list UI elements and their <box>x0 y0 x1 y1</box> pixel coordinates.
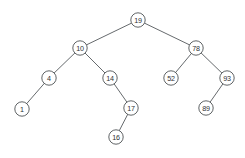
node-label-78: 78 <box>192 44 200 53</box>
tree-edge-17-16 <box>119 114 127 130</box>
tree-edge-19-78 <box>144 23 189 45</box>
tree-node-19[interactable]: 19 <box>131 13 145 27</box>
node-label-16: 16 <box>112 133 120 142</box>
node-label-1: 1 <box>20 105 24 114</box>
node-label-19: 19 <box>134 16 142 25</box>
node-label-52: 52 <box>167 74 175 83</box>
tree-node-78[interactable]: 78 <box>189 41 203 55</box>
tree-edge-4-1 <box>27 83 45 103</box>
tree-node-10[interactable]: 10 <box>73 41 87 55</box>
node-label-93: 93 <box>223 74 231 83</box>
tree-edge-14-17 <box>114 84 127 102</box>
tree-canvas: 19107841452931178916 <box>0 0 245 158</box>
tree-edge-93-89 <box>210 84 223 102</box>
tree-edge-10-14 <box>85 53 105 73</box>
node-label-10: 10 <box>76 44 84 53</box>
tree-node-4[interactable]: 4 <box>42 71 56 85</box>
tree-edge-19-10 <box>86 23 131 45</box>
tree-node-52[interactable]: 52 <box>164 71 178 85</box>
tree-edge-78-52 <box>176 54 192 73</box>
binary-tree-figure: 19107841452931178916 <box>0 0 245 158</box>
tree-node-16[interactable]: 16 <box>109 130 123 144</box>
tree-edge-10-4 <box>54 53 75 73</box>
tree-node-89[interactable]: 89 <box>199 101 213 115</box>
node-label-17: 17 <box>127 104 135 113</box>
node-label-14: 14 <box>106 74 114 83</box>
node-label-4: 4 <box>47 74 51 83</box>
node-layer: 19107841452931178916 <box>15 13 234 144</box>
tree-node-14[interactable]: 14 <box>103 71 117 85</box>
node-label-89: 89 <box>202 104 210 113</box>
tree-node-1[interactable]: 1 <box>15 102 29 116</box>
tree-edge-78-93 <box>201 53 222 73</box>
tree-node-17[interactable]: 17 <box>124 101 138 115</box>
tree-node-93[interactable]: 93 <box>220 71 234 85</box>
